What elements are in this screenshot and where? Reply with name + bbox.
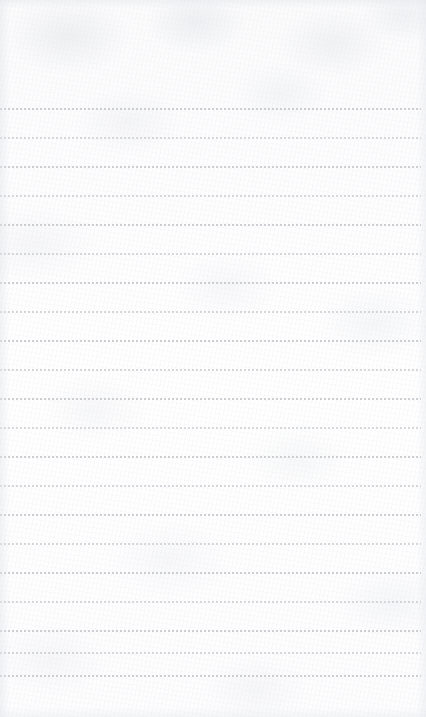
ruled-line bbox=[0, 427, 421, 429]
ruled-line bbox=[0, 311, 421, 313]
ruled-writing-area[interactable] bbox=[0, 0, 426, 717]
ruled-line bbox=[0, 253, 421, 255]
ruled-line bbox=[0, 369, 421, 371]
ruled-line bbox=[0, 543, 421, 545]
ruled-line bbox=[0, 572, 421, 574]
ruled-line bbox=[0, 340, 421, 342]
ruled-line bbox=[0, 514, 421, 516]
ruled-line bbox=[0, 398, 421, 400]
ruled-line bbox=[0, 652, 421, 654]
ruled-line bbox=[0, 601, 421, 603]
ruled-line bbox=[0, 456, 421, 458]
ruled-line bbox=[0, 137, 421, 139]
ruled-line bbox=[0, 195, 421, 197]
ruled-line bbox=[0, 166, 421, 168]
notepaper-page bbox=[0, 0, 426, 717]
ruled-line bbox=[0, 282, 421, 284]
ruled-line bbox=[0, 675, 421, 677]
ruled-line bbox=[0, 630, 421, 632]
ruled-line bbox=[0, 108, 421, 110]
ruled-line bbox=[0, 224, 421, 226]
ruled-line bbox=[0, 485, 421, 487]
